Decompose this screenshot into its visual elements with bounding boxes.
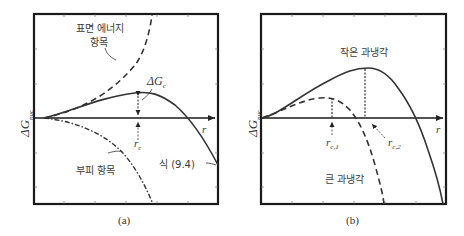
volume-term-label: 부피 항목 <box>76 166 115 176</box>
surface-term-label-line1: 표면 에너지 <box>76 24 124 34</box>
small-undercooling-label: 작은 과냉각 <box>340 48 388 58</box>
large-undercooling-curve <box>262 98 384 204</box>
diagram-canvas <box>0 0 464 236</box>
panel-b-x-axis-label: r <box>436 124 440 135</box>
panel-a-x-axis-label: r <box>202 124 206 135</box>
equation-label-leader <box>206 163 216 165</box>
barrier-label-leader <box>142 89 152 100</box>
panel-a-caption: (a) <box>118 214 130 226</box>
rc2-pointer <box>372 124 385 138</box>
critical-radius-label: rc <box>134 138 141 152</box>
panel-b-caption: (b) <box>346 214 359 226</box>
surface-label-leader <box>105 48 116 60</box>
panel-a-frame <box>34 14 218 204</box>
volume-label-leader <box>108 151 122 153</box>
panel-a-y-axis-label: ΔGnuc <box>17 110 35 137</box>
total-free-energy-curve <box>44 92 218 165</box>
equation-label: 식 (9.4) <box>159 160 195 170</box>
barrier-label: ΔGc <box>147 75 166 90</box>
panel-b-y-axis-label: ΔGnuc <box>245 110 263 137</box>
panel-a-ticks <box>34 14 218 204</box>
panel-a <box>34 14 218 204</box>
volume-term-curve <box>44 118 153 204</box>
large-undercooling-label: 큰 과냉각 <box>325 175 364 185</box>
rc2-label: rc,2 <box>388 137 401 151</box>
rc1-label: rc,1 <box>326 137 339 151</box>
surface-term-label-line2: 항목 <box>90 38 108 48</box>
